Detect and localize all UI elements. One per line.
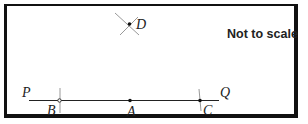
- label-q: Q: [220, 85, 230, 100]
- label-b: B: [47, 103, 56, 118]
- not-to-scale-note: Not to scale: [227, 27, 298, 41]
- label-a: A: [126, 104, 136, 119]
- label-d: D: [135, 17, 146, 32]
- point-d: [128, 22, 132, 26]
- label-p: P: [21, 85, 31, 100]
- point-b: [58, 99, 61, 102]
- construction-diagram: D Not to scale P Q B A C: [0, 0, 308, 124]
- label-c: C: [203, 103, 213, 118]
- point-c: [198, 99, 202, 103]
- point-a: [128, 99, 132, 103]
